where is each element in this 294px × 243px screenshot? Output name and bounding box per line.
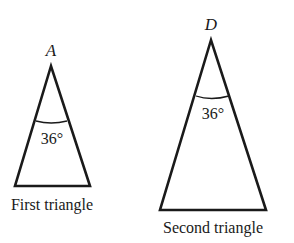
diagram-canvas: A 36° First triangle D 36° Second triang…: [0, 0, 294, 243]
second-triangle-caption: Second triangle: [163, 219, 263, 237]
vertex-label-d: D: [204, 15, 218, 34]
first-angle-arc: [36, 121, 67, 123]
first-triangle-figure: A 36° First triangle: [11, 41, 93, 214]
first-triangle-caption: First triangle: [11, 196, 93, 214]
first-angle-label: 36°: [41, 130, 63, 147]
vertex-label-a: A: [45, 41, 57, 60]
second-angle-label: 36°: [202, 105, 224, 122]
first-triangle: [15, 66, 90, 186]
second-angle-arc: [196, 96, 229, 99]
second-triangle-figure: D 36° Second triangle: [160, 15, 266, 237]
second-triangle: [160, 40, 266, 210]
